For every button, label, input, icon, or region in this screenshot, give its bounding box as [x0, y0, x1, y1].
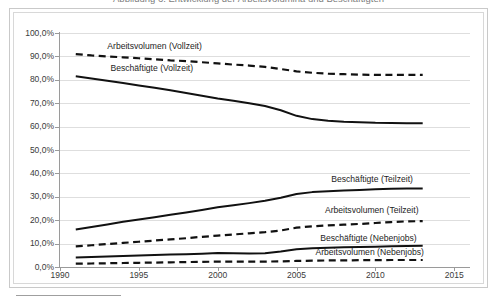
category-axis-line	[59, 267, 470, 268]
value-axis-tick-label: 60,0%	[8, 122, 54, 131]
gridline	[60, 103, 470, 104]
series-label: Beschäftigte (Nebenjobs)	[320, 233, 417, 243]
gridline	[60, 244, 470, 245]
series-label: Beschäftigte (Teilzeit)	[331, 174, 413, 184]
value-axis-tick-mark	[55, 244, 60, 245]
value-axis-tick-mark	[55, 150, 60, 151]
value-axis-tick-label: 100,0%	[8, 29, 54, 38]
category-axis-tick-label: 1995	[119, 270, 159, 280]
category-axis-tick-label: 2015	[434, 270, 474, 280]
value-axis-tick-label: 30,0%	[8, 192, 54, 201]
figure-title-clip: Abbildung 6: Entwicklung der Arbeitsvolu…	[0, 0, 497, 7]
value-axis-tick-label: 40,0%	[8, 169, 54, 178]
gridline	[60, 220, 470, 221]
gridline	[60, 197, 470, 198]
category-axis-tick-label: 1990	[40, 270, 80, 280]
gridline	[60, 150, 470, 151]
gridline	[60, 56, 470, 57]
category-axis-tick-label: 2010	[355, 270, 395, 280]
value-axis-tick-label: 90,0%	[8, 52, 54, 61]
footnote-separator-rule	[16, 295, 121, 296]
value-axis-tick-mark	[55, 127, 60, 128]
value-axis-tick-mark	[55, 56, 60, 57]
gridline	[60, 33, 470, 34]
value-axis-tick-label: 50,0%	[8, 146, 54, 155]
figure-frame	[9, 8, 488, 288]
series-label: Beschäftigte (Vollzeit)	[110, 63, 193, 73]
value-axis-tick-mark	[55, 197, 60, 198]
series-label: Arbeitsvolumen (Nebenjobs)	[315, 247, 423, 257]
figure-title: Abbildung 6: Entwicklung der Arbeitsvolu…	[0, 0, 497, 4]
series-label: Arbeitsvolumen (Vollzeit)	[107, 41, 202, 51]
value-axis-tick-mark	[55, 220, 60, 221]
gridline	[60, 80, 470, 81]
value-axis-tick-mark	[55, 173, 60, 174]
category-axis-tick-label: 2005	[277, 270, 317, 280]
value-axis-tick-mark	[55, 33, 60, 34]
value-axis-tick-label: 70,0%	[8, 99, 54, 108]
value-axis-tick-mark	[55, 103, 60, 104]
gridline	[60, 127, 470, 128]
value-axis-tick-label: 80,0%	[8, 75, 54, 84]
series-label: Arbeitsvolumen (Teilzeit)	[325, 205, 419, 215]
value-axis-tick-label: 20,0%	[8, 216, 54, 225]
category-axis-tick-label: 2000	[198, 270, 238, 280]
value-axis-tick-label: 10,0%	[8, 239, 54, 248]
value-axis-tick-mark	[55, 80, 60, 81]
